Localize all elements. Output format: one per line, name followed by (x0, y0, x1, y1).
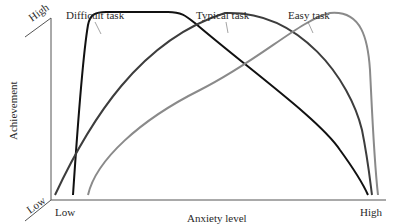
easy-task-label: Easy task (288, 9, 330, 21)
typical-task-label: Typical task (196, 9, 250, 21)
easy-task-curve (88, 13, 378, 195)
typical-task-curve (55, 13, 372, 195)
difficult-task-curve (73, 12, 368, 195)
y-axis-title: Achievement (7, 81, 19, 140)
x-high-label: High (360, 206, 383, 218)
y-high-tick-line (25, 18, 51, 37)
typical-leader-line (226, 22, 228, 33)
x-axis-title: Anxiety level (187, 212, 247, 224)
yerkes-dodson-chart: Difficult task Typical task Easy task Hi… (0, 0, 400, 224)
easy-leader-line (308, 22, 313, 33)
difficult-task-label: Difficult task (66, 9, 125, 21)
difficult-leader-line (95, 22, 101, 34)
x-low-label: Low (55, 206, 75, 218)
